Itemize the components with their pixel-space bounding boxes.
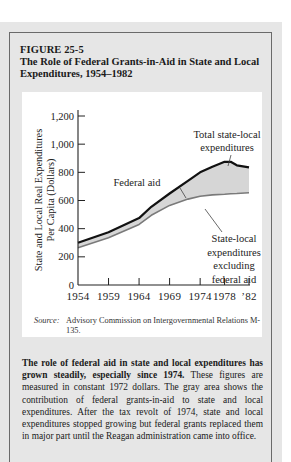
y-tick-label: 800 [58,167,74,178]
annotation-leader [205,209,222,232]
x-tick-label: 1978 [213,290,236,302]
annotation-total-2: expenditures [200,142,254,153]
x-tick-label: 1969 [158,290,181,302]
source-label: Source: [34,316,60,325]
area-chart: 02004006008001,0001,20019541959196419691… [22,92,262,337]
caption-body: These figures are measured in constant 1… [22,370,263,441]
source-text: Advisory Commission on Intergovernmental… [66,316,266,336]
figure-caption: The role of federal aid in state and loc… [22,357,263,442]
x-tick-label: 1954 [66,290,89,302]
y-axis-label: State and Local Real ExpendituresPer Cap… [33,129,57,271]
x-tick-label: 1959 [97,290,120,302]
annotation-excluding: federal aid [212,274,257,285]
y-tick-label: 1,000 [50,139,74,150]
annotation-total: Total state-local [193,129,260,140]
annotation-excluding: State-local [212,233,257,244]
source-note: Source: Advisory Commission on Intergove… [34,316,264,326]
annotation-federal-aid: Federal aid [114,177,162,188]
annotation-excluding: excluding [213,260,255,271]
chart-container: 02004006008001,0001,20019541959196419691… [22,92,262,337]
x-tick-label: ’82 [241,290,257,302]
y-tick-label: 200 [58,251,74,262]
y-tick-label: 1,200 [50,111,74,122]
figure-title: The Role of Federal Grants-in-Aid in Sta… [20,56,265,80]
x-tick-label: 1974 [189,290,212,302]
x-tick-label: 1964 [127,290,150,302]
y-tick-label: 0 [69,280,74,291]
y-tick-label: 600 [58,195,74,206]
y-tick-label: 400 [58,223,74,234]
figure-number: FIGURE 25-5 [20,44,84,56]
annotation-excluding: expenditures [207,247,261,258]
